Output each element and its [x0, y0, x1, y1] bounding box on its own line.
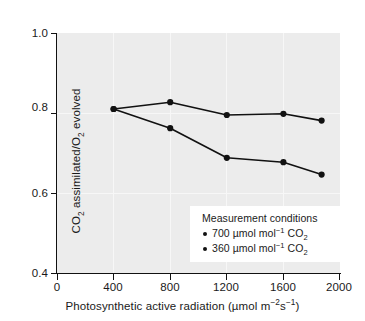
x-axis-title-part-c: ) [296, 300, 300, 312]
y-axis-title-sub-a: 2 [77, 211, 86, 216]
data-point-marker [319, 172, 325, 178]
y-axis-title-part-c: evolved [70, 88, 82, 132]
data-point-marker [319, 118, 325, 124]
y-axis-title-sub-b: 2 [77, 132, 86, 137]
data-point-marker [111, 106, 117, 112]
legend-value-700: 700 [212, 227, 230, 239]
data-point-marker [167, 99, 173, 105]
legend-unit-sup-360: −1 [276, 241, 285, 250]
y-axis-title-part-a: CO [70, 215, 82, 232]
series-layer [0, 0, 365, 321]
chart-figure: 1.0 0.8 0.6 0.4 0 400 800 1200 1600 2000… [0, 0, 365, 321]
legend-marker-icon [203, 247, 207, 251]
data-point-marker [224, 112, 230, 118]
data-point-marker [167, 125, 173, 131]
legend-unit-b-700: CO [285, 227, 304, 239]
legend-item-700: 700 µmol mol−1 CO2 [198, 226, 334, 241]
legend-item-360: 360 µmol mol−1 CO2 [198, 241, 334, 256]
legend-unit-sub-360: 2 [303, 249, 307, 258]
legend-unit-sup-700: −1 [276, 226, 285, 235]
legend-marker-icon [203, 232, 207, 236]
data-point-marker [280, 159, 286, 165]
legend-title: Measurement conditions [198, 211, 334, 226]
legend-label-360: 360 µmol mol−1 CO2 [212, 241, 308, 256]
data-point-marker [224, 155, 230, 161]
series-line-1 [114, 102, 322, 120]
legend-unit-a-700: µmol mol [230, 227, 276, 239]
y-axis-title-part-b: assimilated/O [70, 136, 82, 210]
y-axis-title: CO2 assimilated/O2 evolved [70, 88, 82, 233]
legend: Measurement conditions 700 µmol mol−1 CO… [190, 206, 340, 262]
data-point-marker [280, 111, 286, 117]
series-line-2 [114, 109, 322, 175]
x-axis-title: Photosynthetic active radiation (µmol m−… [0, 300, 365, 312]
legend-label-700: 700 µmol mol−1 CO2 [212, 226, 308, 241]
legend-unit-b-360: CO [285, 242, 304, 254]
x-axis-title-part-a: Photosynthetic active radiation (µmol m [66, 300, 271, 312]
x-axis-title-sup-a: −2 [270, 298, 280, 307]
x-axis-title-sup-b: −1 [286, 298, 296, 307]
legend-unit-a-360: µmol mol [230, 242, 276, 254]
legend-value-360: 360 [212, 242, 230, 254]
